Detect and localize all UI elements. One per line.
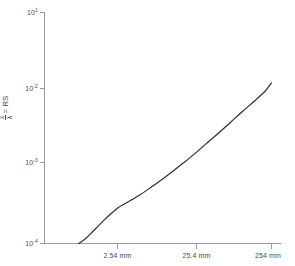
x-tick-marks xyxy=(118,244,272,250)
y-tick-label-1: 10-2 xyxy=(12,85,38,92)
y-tick-label-3: 10-4 xyxy=(12,240,38,247)
x-tick-label-2: 254 mm xyxy=(243,252,293,259)
y-axis-label: x λ = RS xyxy=(0,78,14,138)
y-tick-marks xyxy=(40,13,45,244)
y-tick-label-0-exp: 1 xyxy=(35,7,38,13)
y-axis-label-denominator: λ xyxy=(6,115,13,121)
data-series-curve xyxy=(79,83,272,244)
y-tick-label-0-base: 10 xyxy=(27,9,35,16)
y-axis-label-equals: = RS xyxy=(1,96,10,115)
y-tick-label-3-exp: -4 xyxy=(33,238,38,244)
plot-canvas xyxy=(0,0,295,266)
y-tick-label-1-exp: -2 xyxy=(33,83,38,89)
y-tick-label-0: 101 xyxy=(12,9,38,16)
y-tick-label-2-exp: -3 xyxy=(33,157,38,163)
x-tick-label-1: 25.4 mm xyxy=(166,252,227,259)
y-tick-label-2: 10-3 xyxy=(12,159,38,166)
y-axis-label-fraction: x λ xyxy=(0,115,14,121)
chart-figure: 101 10-2 10-3 10-4 2.54 mm 25.4 mm 254 m… xyxy=(0,0,295,266)
x-tick-label-0: 2.54 mm xyxy=(87,252,148,259)
